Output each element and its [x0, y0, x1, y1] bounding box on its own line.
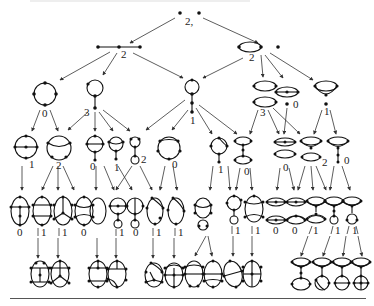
bowl-label: 1: [324, 105, 330, 117]
edges-level2: [32, 100, 336, 134]
node-bowl: 1: [313, 81, 338, 117]
svg-text:1: 1: [218, 163, 224, 175]
l5-node-3: [88, 260, 109, 289]
l3-node-1: 1: [13, 134, 38, 170]
node-two-ovals: 3: [252, 81, 277, 118]
l4-node-9: 1: [167, 197, 186, 239]
level3-nodes: 1 2 0 1 2 0 1: [13, 134, 350, 177]
l4-node-17: 1: [342, 197, 363, 236]
l4-node-5: [90, 198, 106, 224]
node-loop-plus-point: 2: [237, 42, 280, 63]
node-path3: 2: [96, 45, 142, 60]
l5-node-8: [203, 260, 224, 289]
l5-node-11: [291, 258, 312, 290]
l4-node-11: 1: [226, 195, 243, 237]
l4-node-6: 1: [109, 198, 128, 238]
svg-text:0: 0: [17, 226, 23, 238]
l5-node-9: [221, 259, 245, 289]
l4-node-12: 1: [244, 195, 265, 237]
svg-text:0: 0: [244, 165, 250, 177]
l4-node-2: 1: [32, 196, 53, 239]
l3-node-6: 0: [156, 137, 181, 170]
l4-node-7: 0: [126, 198, 145, 238]
node-theta-point: 0: [274, 87, 299, 110]
svg-text:1: 1: [335, 224, 341, 236]
l3-node-8: 0: [234, 137, 253, 177]
svg-text:2: 2: [141, 153, 147, 165]
svg-text:1: 1: [235, 224, 241, 236]
circle-tail-label: 3: [84, 106, 90, 118]
svg-text:1: 1: [313, 224, 319, 236]
l4-node-1: 0: [10, 196, 31, 239]
l3-node-2: 2: [46, 136, 71, 171]
l5-node-4: [107, 260, 128, 289]
root-node: 2,: [178, 11, 201, 27]
node-circle-stick: 1: [185, 78, 199, 126]
svg-text:1: 1: [62, 226, 68, 238]
two-ovals-label: 3: [260, 106, 266, 118]
loop-label: 2: [249, 51, 255, 63]
l5-node-14: [351, 258, 372, 290]
theta-point-label: 0: [293, 98, 299, 110]
node-circle4: 0: [32, 81, 58, 119]
edges-level1: [60, 52, 313, 80]
l4-node-14: 0: [286, 198, 307, 236]
l5-node-6: [164, 263, 185, 289]
l3-node-4: 1: [107, 137, 124, 173]
degeneration-tree-diagram: 2, 2 2 0 3 1: [0, 0, 374, 306]
l4-node-8: 1: [146, 197, 165, 239]
svg-text:0: 0: [273, 224, 279, 236]
l5-node-2: [50, 260, 71, 288]
root-label: 2,: [185, 15, 194, 27]
l3-node-11: 0: [327, 137, 351, 166]
svg-text:1: 1: [29, 158, 35, 170]
circle-stick-label: 1: [190, 114, 196, 126]
edges-level3: [22, 166, 350, 190]
l4-node-16: 1: [324, 197, 345, 236]
svg-text:0: 0: [292, 224, 298, 236]
l4-node-3: 1: [53, 196, 74, 239]
edges-level4: [38, 236, 362, 258]
level5-nodes: [30, 258, 372, 290]
svg-text:2: 2: [322, 156, 328, 168]
svg-text:0: 0: [81, 226, 87, 238]
circle4-label: 0: [42, 107, 48, 119]
l4-node-10: [194, 198, 213, 230]
l5-node-7: [184, 261, 205, 288]
svg-text:0: 0: [90, 160, 96, 172]
l3-node-5: 2: [130, 137, 147, 165]
node-circle-tail: 3: [84, 80, 103, 118]
level4-nodes: 0 1 1 0 1 0: [10, 195, 363, 239]
svg-text:0: 0: [172, 158, 178, 170]
svg-text:0: 0: [133, 226, 139, 238]
bottom-rule: [10, 298, 366, 299]
svg-text:1: 1: [255, 224, 261, 236]
edges-root: [130, 18, 258, 43]
svg-text:1: 1: [178, 226, 184, 238]
l5-node-10: [242, 260, 263, 288]
l5-node-5: [145, 262, 164, 288]
svg-text:1: 1: [41, 226, 47, 238]
svg-text:1: 1: [156, 226, 162, 238]
l4-node-15: 1: [306, 197, 327, 236]
l5-node-12: [312, 258, 333, 290]
l5-node-1: [30, 261, 51, 287]
l3-node-10: 2: [300, 137, 328, 168]
l3-node-9: 0: [274, 138, 297, 173]
l4-node-13: 0: [266, 198, 287, 236]
svg-text:0: 0: [283, 161, 289, 173]
path3-label: 2: [121, 48, 127, 60]
svg-text:0: 0: [344, 154, 350, 166]
svg-text:2: 2: [56, 159, 62, 171]
l5-node-13: [332, 258, 353, 290]
svg-text:1: 1: [119, 226, 125, 238]
l3-node-3: 0: [85, 134, 104, 172]
